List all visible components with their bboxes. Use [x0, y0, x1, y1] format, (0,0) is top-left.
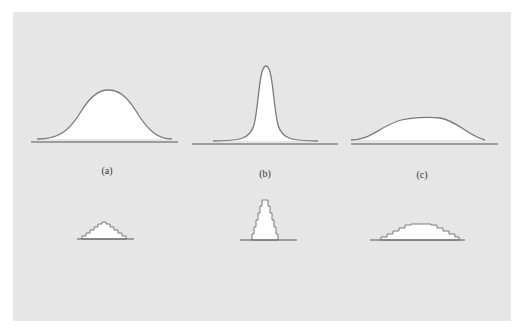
label-a: (a) — [101, 165, 112, 176]
curve-a — [31, 90, 178, 142]
curve-c — [351, 117, 498, 144]
curve-b — [192, 66, 338, 144]
label-b: (b) — [259, 168, 271, 179]
distribution-figure — [0, 0, 524, 334]
histogram-b — [240, 200, 297, 240]
label-c: (c) — [416, 169, 427, 180]
histogram-c — [370, 224, 465, 240]
histogram-a — [77, 222, 134, 239]
